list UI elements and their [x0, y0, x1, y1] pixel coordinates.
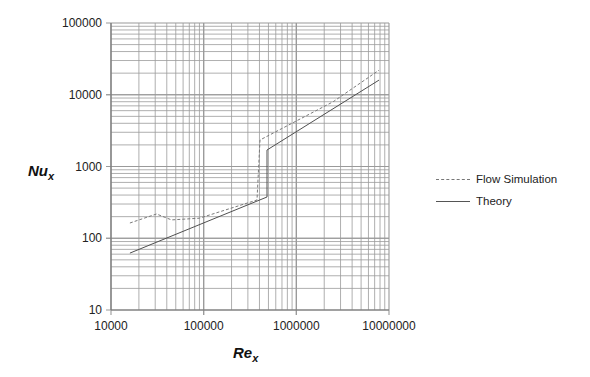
x-tick-label: 1000000: [273, 319, 320, 333]
y-tick-label: 10000: [69, 88, 103, 102]
x-axis-label: Rex: [233, 344, 259, 364]
series-line-flow-simulation: [130, 70, 379, 223]
dashed-line-icon: [436, 179, 470, 180]
legend-item-theory: Theory: [436, 190, 557, 212]
y-tick-label: 10: [89, 303, 103, 317]
y-tick-label: 1000: [75, 160, 102, 174]
solid-line-icon: [436, 201, 470, 202]
legend-item-flow-simulation: Flow Simulation: [436, 168, 557, 190]
grid-lines: [106, 23, 389, 315]
y-tick-label: 100000: [62, 16, 102, 30]
legend: Flow Simulation Theory: [436, 168, 557, 212]
y-tick-label: 100: [82, 231, 102, 245]
x-tick-label: 100000: [184, 319, 224, 333]
y-axis-label: Nux: [28, 162, 55, 182]
legend-label: Theory: [476, 195, 512, 207]
tick-labels: 1010010001000010000010000100000100000010…: [62, 16, 416, 333]
x-tick-label: 10000: [94, 319, 128, 333]
legend-label: Flow Simulation: [476, 173, 557, 185]
x-tick-label: 10000000: [362, 319, 416, 333]
